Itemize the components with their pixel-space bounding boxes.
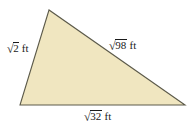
radical-expression-base: √32 [84, 110, 102, 123]
label-base: √32ft [84, 110, 111, 123]
radicand-left: 2 [13, 42, 20, 55]
radical-expression-hypotenuse: √98 [109, 39, 127, 52]
triangle-shape [0, 0, 191, 128]
triangle-polygon [20, 10, 185, 105]
label-left-side: √2ft [7, 42, 29, 55]
label-hypotenuse: √98ft [109, 39, 136, 52]
figure-container: √2ft √98ft √32ft [0, 0, 191, 128]
radicand-hypotenuse: 98 [115, 39, 127, 52]
unit-base: ft [104, 110, 111, 122]
radical-expression-left: √2 [7, 42, 19, 55]
unit-left: ft [22, 42, 29, 54]
unit-hypotenuse: ft [129, 39, 136, 51]
radicand-base: 32 [90, 110, 102, 123]
